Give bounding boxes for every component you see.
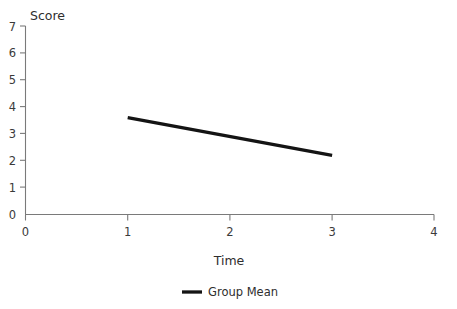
- x-axis-title: Time: [213, 253, 245, 268]
- y-tick-label-4: 4: [9, 100, 16, 114]
- x-tick-label-1: 1: [124, 225, 131, 239]
- y-tick-label-1: 1: [9, 181, 16, 195]
- y-tick-label-2: 2: [9, 154, 16, 168]
- y-tick-label-7: 7: [9, 20, 16, 34]
- x-tick-label-3: 3: [328, 225, 335, 239]
- legend-label-group-mean: Group Mean: [208, 285, 278, 299]
- x-tick-label-0: 0: [22, 225, 29, 239]
- y-axis-title: Score: [30, 8, 65, 23]
- line-chart: 7 6 5 4 3 2 1 0 0 1 2 3 4 Score Time Gro…: [0, 0, 457, 309]
- y-tick-label-6: 6: [9, 46, 16, 60]
- x-tick-label-4: 4: [430, 225, 437, 239]
- x-tick-label-2: 2: [226, 225, 233, 239]
- series-line-group-mean: [128, 118, 332, 156]
- chart-figure: 7 6 5 4 3 2 1 0 0 1 2 3 4 Score Time Gro…: [0, 0, 457, 309]
- y-tick-label-3: 3: [9, 127, 16, 141]
- y-tick-label-0: 0: [9, 208, 16, 222]
- y-tick-label-5: 5: [9, 73, 16, 87]
